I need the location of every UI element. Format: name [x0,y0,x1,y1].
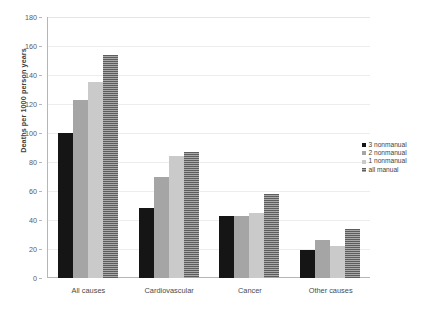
y-axis-tick-mark [39,17,42,18]
y-axis-tick-mark [39,46,42,47]
y-axis-tick-mark [39,220,42,221]
bar [184,152,199,278]
bar-group [209,17,290,278]
y-axis-tick-labels: 020406080100120140160180 [0,17,42,278]
bar [169,156,184,278]
x-axis-category-labels: All causesCardiovascularCancerOther caus… [48,286,371,295]
legend-swatch-icon [362,143,366,147]
bar [249,213,264,278]
x-axis-tick-label: All causes [48,286,129,295]
bar [88,82,103,278]
bar [103,55,118,278]
y-axis-tick-label: 140 [25,71,37,80]
legend-label: 2 nonmanual [369,150,407,157]
legend-swatch-icon [362,160,366,164]
x-axis-tick-label: Cancer [210,286,291,295]
y-axis-tick-label: 20 [29,245,37,254]
legend-item[interactable]: 3 nonmanual [362,142,407,149]
legend-label: all manual [369,167,399,174]
y-axis-tick-label: 60 [29,187,37,196]
y-axis-tick-mark [39,278,42,279]
bar [330,246,345,278]
y-axis-tick-label: 80 [29,158,37,167]
x-axis-tick-label: Other causes [290,286,371,295]
y-axis-tick-mark [39,133,42,134]
bar [154,177,169,279]
y-axis-tick-mark [39,162,42,163]
bar [58,133,73,278]
bar [73,100,88,278]
legend-item[interactable]: 2 nonmanual [362,150,407,157]
y-axis-tick-mark [39,104,42,105]
x-axis-tick-label: Cardiovascular [129,286,210,295]
legend: 3 nonmanual2 nonmanual1 nonmanualall man… [362,142,407,173]
bar [219,216,234,278]
y-axis-tick-label: 0 [33,274,37,283]
bar-group [290,17,371,278]
y-axis-tick-label: 100 [25,129,37,138]
bar [345,229,360,278]
bar [139,208,154,278]
plot-area [47,17,370,278]
y-axis-tick-mark [39,75,42,76]
y-axis-tick-label: 160 [25,42,37,51]
bar-groups [48,17,370,278]
bar [264,194,279,278]
bar-group [129,17,210,278]
legend-label: 1 nonmanual [369,158,407,165]
bar-chart: Deaths per 1000 person years 02040608010… [0,0,440,316]
legend-item[interactable]: all manual [362,167,407,174]
y-axis-tick-mark [39,249,42,250]
bar [300,250,315,278]
legend-label: 3 nonmanual [369,142,407,149]
y-axis-tick-label: 180 [25,13,37,22]
bar [234,216,249,278]
legend-swatch-icon [362,168,366,172]
y-axis-tick-mark [39,191,42,192]
bar [315,240,330,278]
legend-item[interactable]: 1 nonmanual [362,158,407,165]
legend-swatch-icon [362,151,366,155]
y-axis-tick-label: 120 [25,100,37,109]
bar-group [48,17,129,278]
y-axis-tick-label: 40 [29,216,37,225]
